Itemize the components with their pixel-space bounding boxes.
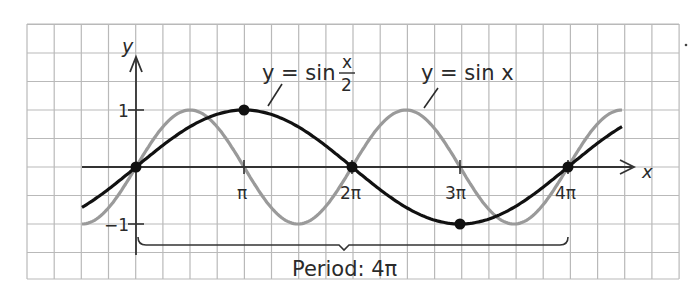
point-pi-max bbox=[239, 105, 250, 116]
stray-dot bbox=[685, 44, 688, 47]
svg-text:y = sin x: y = sin x bbox=[421, 61, 514, 85]
tick-label-pi: π bbox=[237, 183, 247, 203]
tick-label-2pi: 2π bbox=[340, 183, 361, 203]
tick-label-neg1: −1 bbox=[104, 215, 129, 235]
point-4pi bbox=[563, 162, 574, 173]
label-sin-half-x: y = sin x 2 bbox=[262, 52, 355, 106]
tick-label-1: 1 bbox=[118, 101, 129, 121]
svg-text:x: x bbox=[342, 52, 352, 72]
y-axis-label: y bbox=[121, 35, 134, 57]
point-2pi bbox=[347, 162, 358, 173]
sine-graph: y x 1 −1 π 2π 3π 4π y = sin x 2 y = sin … bbox=[0, 0, 695, 302]
x-axis-label: x bbox=[641, 161, 653, 182]
svg-text:y = sin: y = sin bbox=[262, 61, 335, 85]
tick-label-4pi: 4π bbox=[555, 183, 576, 203]
svg-text:2: 2 bbox=[341, 75, 352, 95]
tick-label-3pi: 3π bbox=[445, 183, 466, 203]
grid bbox=[27, 24, 679, 279]
period-label: Period: 4π bbox=[292, 257, 398, 281]
leader-line-sin-x bbox=[424, 88, 438, 108]
leader-line-sin-half bbox=[268, 84, 282, 106]
point-origin bbox=[131, 162, 142, 173]
point-3pi-min bbox=[455, 219, 466, 230]
